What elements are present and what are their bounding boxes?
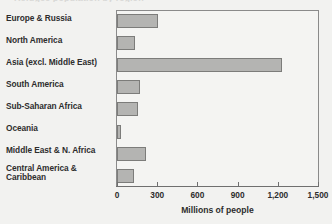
- category-label-sub-saharan-africa: Sub-Saharan Africa: [6, 102, 105, 112]
- bar-south-america: [117, 80, 140, 94]
- bar-north-america: [117, 36, 135, 50]
- x-tick-900: [238, 182, 239, 186]
- bar-central-america-caribbean: [117, 169, 134, 183]
- bar-oceania: [117, 125, 121, 139]
- x-tick-300: [157, 182, 158, 186]
- category-label-south-america: South America: [6, 80, 105, 90]
- x-axis: 03006009001,2001,500: [116, 186, 319, 187]
- x-tick-1500: [318, 182, 319, 186]
- x-tick-label-0: 0: [115, 190, 120, 200]
- category-label-north-america: North America: [6, 36, 105, 46]
- x-tick-label-1500: 1,500: [308, 190, 329, 200]
- x-tick-label-900: 900: [231, 190, 245, 200]
- bar-sub-saharan-africa: [117, 102, 138, 116]
- x-tick-label-600: 600: [190, 190, 204, 200]
- category-label-europe-russia: Europe & Russia: [6, 14, 105, 24]
- category-label-middle-east-n-africa: Middle East & N. Africa: [6, 146, 105, 156]
- bar-middle-east-n-africa: [117, 147, 146, 161]
- category-label-oceania: Oceania: [6, 124, 105, 134]
- bar-europe-russia: [117, 14, 158, 28]
- clipped-header-text: Refugee population by region: [14, 0, 144, 2]
- category-axis-labels: Europe & RussiaNorth AmericaAsia (excl. …: [0, 9, 113, 187]
- x-tick-1200: [278, 182, 279, 186]
- x-tick-label-300: 300: [150, 190, 164, 200]
- plot-area: [116, 10, 319, 187]
- category-label-asia-excl-middle-east: Asia (excl. Middle East): [6, 58, 105, 68]
- category-label-central-america-caribbean: Central America & Caribbean: [6, 164, 105, 183]
- bar-asia-excl-middle-east: [117, 58, 282, 72]
- bars-container: [117, 11, 318, 186]
- x-tick-0: [117, 182, 118, 186]
- bar-chart: Refugee population by region Europe & Ru…: [0, 0, 332, 224]
- x-tick-600: [197, 182, 198, 186]
- x-tick-label-1200: 1,200: [267, 190, 288, 200]
- x-axis-title: Millions of people: [116, 205, 319, 215]
